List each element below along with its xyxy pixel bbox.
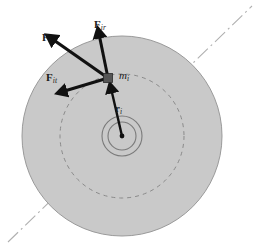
label-mass-subscript: i [127,74,129,83]
label-mass-element: mi [119,66,129,83]
label-resultant-force-subscript: i [49,36,51,45]
label-resultant-force-symbol: F [42,31,49,43]
label-radial-force: Fir [94,15,106,32]
label-tangential-force: Fit [46,68,57,85]
label-radial-force-subscript: ir [101,23,106,32]
label-mass-symbol: m [119,69,127,81]
label-position-vector: ri [115,99,122,116]
label-radius-subscript: i [120,107,122,116]
rotating-disk-force-diagram: Fi Fir Fit mi ri [0,0,260,250]
label-radial-force-symbol: F [94,18,101,30]
label-resultant-force: Fi [42,28,51,45]
label-tangential-force-symbol: F [46,71,53,83]
diagram-canvas [0,0,260,250]
label-tangential-force-subscript: it [53,76,57,85]
mass-element-marker [104,74,113,83]
